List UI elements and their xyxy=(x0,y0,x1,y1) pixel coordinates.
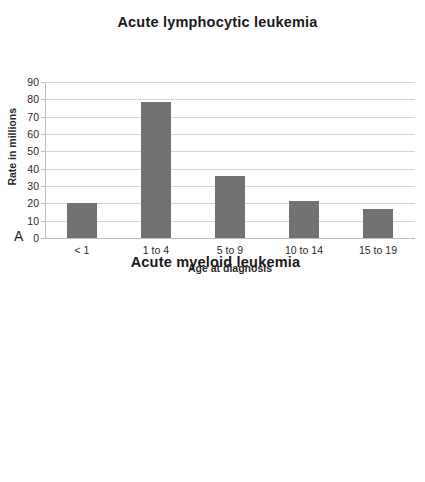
plot-canvas-a xyxy=(45,82,415,238)
y-tick-label: 40 xyxy=(27,163,39,175)
y-tick-label: 80 xyxy=(27,93,39,105)
chart-title-a: Acute lymphocytic leukemia xyxy=(0,0,425,30)
panel-letter-a: A xyxy=(14,228,23,244)
y-tick-label: 0 xyxy=(33,232,39,244)
y-tick-label: 10 xyxy=(27,215,39,227)
y-tick-label: 30 xyxy=(27,180,39,192)
bar-series-a xyxy=(45,82,415,238)
panel-a: Acute lymphocytic leukemia Rate in milli… xyxy=(0,0,425,250)
y-axis-ticks-a: 0102030405060708090 xyxy=(13,82,39,238)
bar xyxy=(363,209,393,238)
y-tick-label: 20 xyxy=(27,197,39,209)
bar xyxy=(215,176,245,238)
bar-slot xyxy=(267,82,341,238)
panel-b: Acute myeloid leukemia Rate in millions … xyxy=(0,250,425,482)
bar xyxy=(289,201,319,238)
bar-slot xyxy=(341,82,415,238)
bar-slot xyxy=(193,82,267,238)
chart-title-b: Acute myeloid leukemia xyxy=(0,250,425,270)
y-tick-label: 70 xyxy=(27,111,39,123)
bar-slot xyxy=(45,82,119,238)
y-tick-label: 50 xyxy=(27,145,39,157)
gridline xyxy=(45,238,415,239)
y-tick-mark xyxy=(41,238,45,239)
y-tick-label: 90 xyxy=(27,76,39,88)
bar xyxy=(141,102,171,238)
bar-slot xyxy=(119,82,193,238)
bar xyxy=(67,203,97,238)
y-tick-label: 60 xyxy=(27,128,39,140)
